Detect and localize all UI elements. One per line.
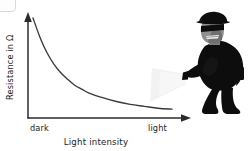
- x-axis-title: Light intensity: [64, 137, 128, 147]
- figure-canvas: Resistance in Ω dark light Light intensi…: [0, 0, 248, 151]
- flashlight-icon: [182, 71, 188, 80]
- x-tick-label-dark: dark: [30, 123, 49, 133]
- axes-group: [24, 12, 191, 122]
- ldr-characteristic-figure: Resistance in Ω dark light Light intensi…: [0, 0, 248, 151]
- y-axis-arrowhead: [24, 12, 32, 22]
- flashlight-beam-icon: [150, 68, 186, 102]
- burglar-bag-icon: [229, 67, 244, 80]
- labels-group: Resistance in Ω dark light Light intensi…: [5, 35, 168, 147]
- x-tick-label-light: light: [148, 123, 168, 133]
- burglar-with-flashlight-illustration: [150, 12, 244, 114]
- x-axis-arrowhead: [181, 114, 191, 122]
- y-axis-label: Resistance in Ω: [5, 35, 15, 100]
